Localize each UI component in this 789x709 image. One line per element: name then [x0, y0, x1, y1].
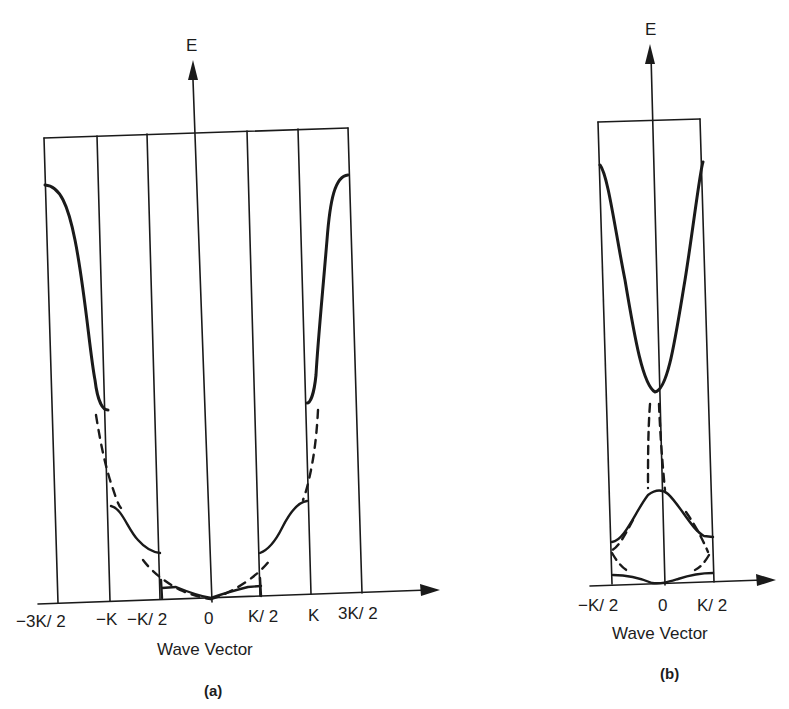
panel-b-tick-neg-k2: −K/ 2 — [578, 596, 618, 616]
panel-a-tick-neg-k: −K — [96, 610, 117, 630]
panel-a-tick-zero: 0 — [204, 609, 213, 629]
band-diagram-canvas — [0, 0, 789, 709]
panel-b-x-arrow-icon — [756, 574, 776, 586]
panel-a-tick-k2: K/ 2 — [248, 607, 278, 627]
panel-a-tick-neg-3k2: −3K/ 2 — [16, 612, 66, 632]
panel-b-y-arrow-icon — [645, 44, 655, 64]
panel-b-caption: (b) — [660, 665, 679, 682]
panel-a-tick-neg-k2: −K/ 2 — [127, 610, 167, 630]
panel-a-x-arrow-icon — [420, 584, 440, 596]
panel-a-tick-k: K — [308, 606, 319, 626]
panel-a-x-axis-label: Wave Vector — [157, 640, 253, 660]
panel-b-tick-zero: 0 — [658, 596, 667, 616]
panel-b-solid-bands — [600, 162, 703, 392]
panel-a-y-arrow-icon — [188, 60, 198, 80]
panel-b-y-axis-label: E — [645, 20, 656, 40]
panel-a-tick-3k2: 3K/ 2 — [338, 604, 378, 624]
panel-b-tick-k2: K/ 2 — [697, 596, 727, 616]
panel-b-frame — [598, 55, 714, 585]
panel-b-x-axis-label: Wave Vector — [612, 624, 708, 644]
panel-a-frame — [44, 80, 362, 603]
panel-a-dashed-free-electron — [96, 410, 318, 599]
panel-a-y-axis-label: E — [186, 36, 197, 56]
panel-a-caption: (a) — [204, 682, 222, 699]
panel-b-x-axis — [590, 580, 763, 586]
